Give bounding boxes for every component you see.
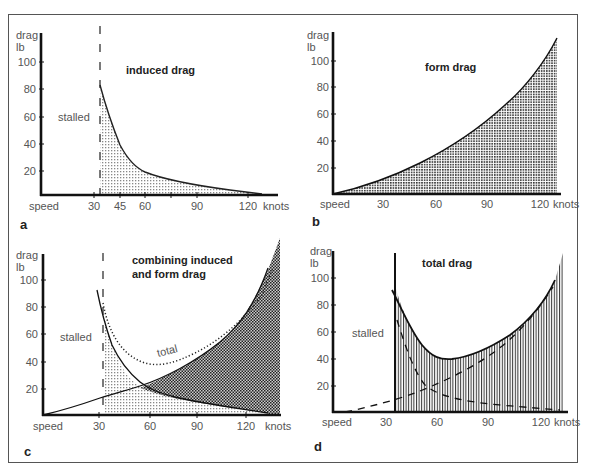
panel-d: drag lb 100 80 60 40 20 speed 30 60 90 1… [310,245,581,454]
x-label-speed: speed [320,198,350,210]
ytick-60: 60 [317,108,329,120]
x-label-speed: speed [29,200,59,212]
induced-drag-area [100,85,262,195]
x-label-knots: knots [263,200,290,212]
ytick-60: 60 [26,328,38,340]
xtick-60: 60 [139,200,151,212]
stalled-label: stalled [60,331,92,343]
ytick-40: 40 [317,353,329,365]
ytick-100: 100 [311,55,329,67]
ytick-40: 40 [24,138,36,150]
stalled-label: stalled [352,327,384,339]
x-label-knots: knots [553,198,580,210]
panel-title-line2: and form drag [132,268,206,280]
xtick-60: 60 [144,420,156,432]
panel-b: drag lb 100 80 60 40 20 speed 30 60 90 1… [307,29,580,229]
xtick-90: 90 [191,420,203,432]
total-curve-label: total [156,342,179,359]
panel-letter-d: d [314,439,322,454]
ytick-40: 40 [26,356,38,368]
xtick-90: 90 [481,198,493,210]
total-drag-area [395,253,563,412]
panel-letter-a: a [20,217,28,232]
panel-letter-c: c [24,444,31,459]
stalled-label: stalled [58,111,90,123]
ytick-60: 60 [24,111,36,123]
xtick-45: 45 [114,200,126,212]
ytick-20: 20 [317,162,329,174]
ytick-100: 100 [18,56,36,68]
panel-title: total drag [422,257,472,269]
y-label-lb: lb [310,257,319,269]
xtick-120: 120 [532,416,550,428]
ytick-20: 20 [26,383,38,395]
xtick-30: 30 [93,420,105,432]
panel-title: form drag [425,61,476,73]
panel-a: drag lb 100 80 60 40 20 speed 30 45 60 9… [16,26,290,232]
y-label-lb: lb [307,41,316,53]
xtick-120: 120 [237,420,255,432]
panel-title: induced drag [126,64,195,76]
xtick-60: 60 [431,416,443,428]
xtick-60: 60 [430,198,442,210]
ytick-80: 80 [317,81,329,93]
y-label-drag: drag [310,245,332,257]
panel-c: drag lb 100 80 60 40 20 speed 30 60 90 1… [16,238,292,459]
xtick-120: 120 [531,198,549,210]
xtick-30: 30 [380,416,392,428]
panel-title-line1: combining induced [132,254,233,266]
x-label-knots: knots [265,420,292,432]
x-label-speed: speed [322,416,352,428]
y-label-drag: drag [16,249,38,261]
xtick-30: 30 [377,198,389,210]
ytick-20: 20 [317,380,329,392]
ytick-80: 80 [317,299,329,311]
ytick-80: 80 [26,301,38,313]
ytick-40: 40 [317,135,329,147]
ytick-80: 80 [24,83,36,95]
xtick-90: 90 [482,416,494,428]
y-label-drag: drag [16,29,38,41]
xtick-90: 90 [191,200,203,212]
ytick-100: 100 [311,272,329,284]
x-label-knots: knots [554,416,581,428]
drag-charts: drag lb 100 80 60 40 20 speed 30 45 60 9… [0,0,592,472]
y-label-lb: lb [16,261,25,273]
xtick-30: 30 [88,200,100,212]
panel-letter-b: b [312,214,320,229]
y-label-lb: lb [16,41,25,53]
ytick-100: 100 [20,274,38,286]
ytick-20: 20 [24,165,36,177]
ytick-60: 60 [317,326,329,338]
xtick-120: 120 [239,200,257,212]
y-label-drag: drag [307,29,329,41]
x-label-speed: speed [33,420,63,432]
